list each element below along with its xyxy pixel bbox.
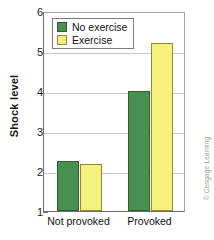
copyright-credit: © Cengage Learning xyxy=(200,118,214,218)
copyright-credit-text: © Cengage Learning xyxy=(204,136,211,200)
bar-no-exercise-provoked xyxy=(128,91,150,211)
y-tick-label: 3 xyxy=(29,127,43,138)
chart-legend: No exercise Exercise xyxy=(52,18,134,49)
legend-item-no-exercise: No exercise xyxy=(57,22,127,33)
legend-item-exercise: Exercise xyxy=(57,35,127,46)
y-tick-label: 5 xyxy=(29,47,43,58)
legend-swatch-no-exercise xyxy=(57,22,67,32)
legend-label-exercise: Exercise xyxy=(72,35,112,46)
y-tick-label: 6 xyxy=(29,7,43,18)
x-tick-label: Not provoked xyxy=(47,215,109,227)
y-tick-label: 1 xyxy=(29,207,43,218)
bar-no-exercise-not-provoked xyxy=(57,161,79,211)
bar-chart-figure: Shock level 123456 No exercise Exercise … xyxy=(0,0,214,240)
legend-label-no-exercise: No exercise xyxy=(72,22,127,33)
x-tick-label: Provoked xyxy=(127,215,171,227)
y-tick-label: 4 xyxy=(29,87,43,98)
y-axis-ticks: 123456 xyxy=(24,12,43,212)
legend-swatch-exercise xyxy=(57,35,67,45)
y-tick-mark xyxy=(43,212,48,213)
plot-area: No exercise Exercise xyxy=(43,12,185,212)
y-tick-label: 2 xyxy=(29,167,43,178)
bar-exercise-provoked xyxy=(151,43,173,211)
y-axis-title-text: Shock level xyxy=(8,75,20,138)
bar-exercise-not-provoked xyxy=(80,164,102,211)
